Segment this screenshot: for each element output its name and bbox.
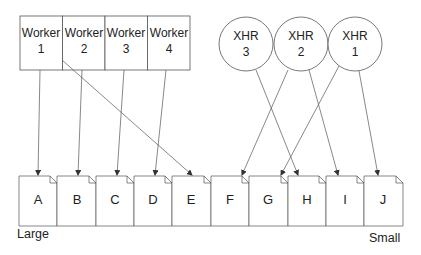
document-h-label: H [302,192,311,207]
document-a-label: A [34,192,43,207]
worker-4-label-line2: 4 [166,42,173,56]
large-label: Large [17,227,49,241]
edge-worker1-to-a [38,70,40,175]
diagram-canvas: Worker 1 Worker 2 Worker 3 Worker 4 XHR … [0,0,421,255]
worker-3-label-line1: Worker [107,26,145,40]
worker-2-label-line1: Worker [65,26,103,40]
worker-1-label-line1: Worker [22,26,60,40]
xhr-2-circle [274,17,328,71]
xhr-3-label-line2: 3 [243,45,250,59]
xhr-1-label-line1: XHR [342,29,368,43]
document-d-label: D [148,192,157,207]
xhr-1-circle [328,17,382,71]
worker-1-label-line2: 1 [38,42,45,56]
worker-group [20,16,190,70]
document-f-label: F [226,192,234,207]
edge-xhr3-to-h [256,70,298,175]
document-j-label: J [380,192,387,207]
xhr-2-label-line2: 2 [298,45,305,59]
xhr-3-label-line1: XHR [233,29,259,43]
document-c-label: C [110,192,119,207]
xhr-3-circle [219,17,273,71]
document-b-label: B [73,192,82,207]
edge-xhr2-to-i [309,70,338,175]
edge-xhr1-to-j [359,71,378,175]
edge-worker4-to-d [155,70,166,175]
edge-xhr2-to-f [242,70,288,175]
xhr-2-label-line1: XHR [288,29,314,43]
edge-xhr1-to-g [281,66,339,175]
edge-worker3-to-c [117,70,124,175]
document-i-label: I [343,192,347,207]
document-e-label: E [187,192,196,207]
edge-worker1-to-e [62,60,192,175]
worker-4-label-line1: Worker [150,26,188,40]
edges [38,60,378,175]
edge-worker2-to-b [78,70,82,175]
xhr-1-label-line2: 1 [352,45,359,59]
small-label: Small [369,231,400,245]
worker-2-label-line2: 2 [81,42,88,56]
worker-3-label-line2: 3 [123,42,130,56]
xhr-group [219,17,382,71]
document-g-label: G [263,192,273,207]
